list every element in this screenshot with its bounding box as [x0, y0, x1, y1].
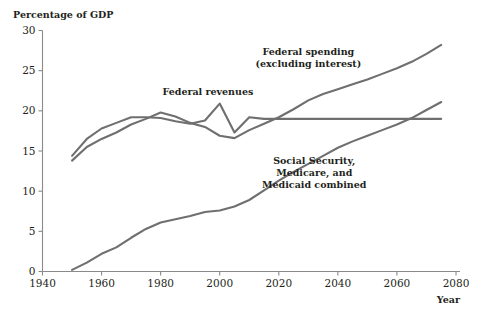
y-axis-tick-label: 30 [22, 24, 35, 36]
x-axis-tick-label: 2060 [384, 277, 411, 289]
y-axis-tick-label: 0 [29, 265, 36, 277]
x-axis-tick-label: 2080 [443, 277, 470, 289]
y-axis-tick-label: 20 [22, 104, 35, 116]
y-axis-title: Percentage of GDP [13, 9, 113, 20]
x-axis-title: Year [436, 294, 461, 305]
annotation-federal-spending-line: Federal spending [262, 46, 354, 57]
annotation-federal-spending: Federal spending(excluding interest) [255, 46, 361, 69]
y-axis-tick-label: 10 [22, 185, 35, 197]
y-axis-tick-label: 5 [29, 225, 36, 237]
line-chart-plot: 0510152025301940196019802000202020402060… [0, 0, 485, 313]
x-axis-tick-label: 1980 [147, 277, 174, 289]
annotation-entitlements-line: Medicare, and [276, 167, 352, 179]
x-axis-tick-label: 1940 [29, 277, 56, 289]
x-axis-tick-label: 2040 [324, 277, 351, 289]
x-axis-tick-label: 2000 [206, 277, 233, 289]
annotation-entitlements-line: Social Security, [273, 155, 355, 167]
annotation-entitlements: Social Security,Medicare, andMedicaid co… [262, 155, 367, 190]
y-axis-tick-label: 25 [22, 64, 35, 76]
annotation-federal-revenues-line: Federal revenues [162, 86, 253, 97]
x-axis-tick-label: 2020 [265, 277, 292, 289]
y-axis-tick-label: 15 [22, 145, 35, 157]
chart-container: 0510152025301940196019802000202020402060… [0, 0, 485, 313]
annotation-entitlements-line: Medicaid combined [262, 179, 367, 190]
annotation-federal-revenues: Federal revenues [162, 86, 253, 97]
annotation-federal-spending-line: (excluding interest) [255, 58, 361, 69]
x-axis-tick-label: 1960 [88, 277, 115, 289]
